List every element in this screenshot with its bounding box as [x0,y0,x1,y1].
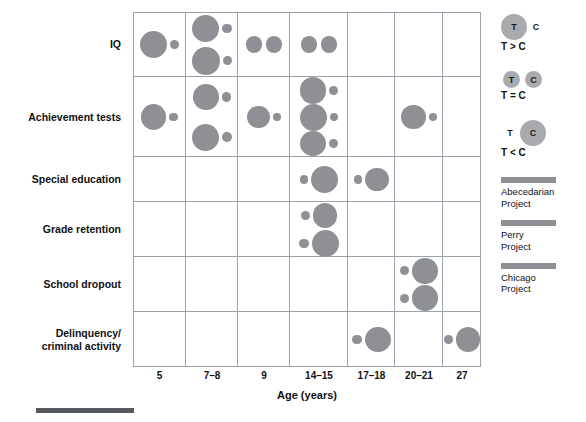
bubble-treatment [401,105,425,129]
bubble-control [222,92,231,101]
x-axis-tick-label: 27 [443,370,481,381]
legend-item-t-equal-c: T C T = C [501,71,586,101]
legend-item-chicago: Chicago Project [501,263,586,296]
x-axis-tick-label: 20–21 [395,370,443,381]
grid-cell [348,202,395,257]
grid-cell [290,257,348,312]
x-axis-tick-label: 7–8 [186,370,238,381]
grid-cell [348,12,395,77]
plot-area [133,12,481,367]
legend: T C T > C T C T = C T C T < C Abec [501,14,586,305]
row-label-line-2: criminal activity [42,340,121,352]
grid-cell [395,312,443,367]
legend-spacer-3 [501,161,586,177]
bubble-control [329,86,338,95]
grid-cell [443,257,481,312]
legend-spacer-2 [501,104,586,120]
grid-cell [238,157,290,202]
row-label-line-1: Delinquency/ [42,327,121,339]
legend-circle-treatment: T [503,71,520,88]
legend-circle-control: C [520,120,546,146]
bubble-chart-figure: IQ Achievement tests Special education G… [0,0,586,422]
row-label-school-dropout: School dropout [0,257,128,312]
legend-color-bar-abecedarian [501,177,556,183]
bubble-control [266,36,283,53]
bubble-treatment [140,31,167,58]
row-label-delinquency-criminal-activity: Delinquency/ criminal activity [0,312,128,367]
legend-circle-control: C [529,20,543,34]
legend-item-perry: Perry Project [501,220,586,253]
row-label-column: IQ Achievement tests Special education G… [0,12,128,367]
bubble-treatment [300,131,326,157]
bubble-control [312,230,339,257]
grid-cell [186,202,238,257]
row-label-iq: IQ [0,12,128,77]
legend-circle-control: C [525,71,542,88]
grid-cell [443,12,481,77]
bubble-control [321,36,338,53]
legend-circle-treatment: T [501,14,527,40]
legend-color-bar-chicago [501,263,556,269]
bubble-control [412,285,438,311]
bubble-treatment [352,335,361,344]
bubble-treatment [247,106,270,129]
bubble-treatment [301,211,310,220]
bubble-treatment [141,104,166,129]
grid-cell [395,157,443,202]
legend-spacer-1 [501,55,586,71]
bubble-treatment [192,124,219,151]
grid-cell [443,157,481,202]
legend-label-line-2: Project [501,198,586,210]
bubble-treatment [299,239,308,248]
bubble-control [429,113,437,121]
legend-label-line-1: Abecedarian [501,186,586,198]
x-axis-tick-label: 14–15 [290,370,348,381]
grid-cell [133,257,186,312]
legend-symbol-t-greater-c: T C [501,14,586,44]
bubble-treatment [300,77,326,103]
bubble-control [329,139,338,148]
row-label-special-education: Special education [0,157,128,202]
grid-cell [186,157,238,202]
legend-label-chicago: Chicago Project [501,272,586,296]
bubble-control [170,40,179,49]
bubble-treatment [192,15,219,42]
grid-cell [238,202,290,257]
grid-cell [133,157,186,202]
grid-cell [443,77,481,157]
row-label-achievement-tests: Achievement tests [0,77,128,157]
legend-label-perry: Perry Project [501,229,586,253]
bubble-control [456,327,480,351]
bubble-treatment [354,175,362,183]
x-axis-tick-label: 9 [238,370,290,381]
figure-rule [36,408,134,413]
grid-cell [238,257,290,312]
grid-cell [290,12,348,77]
bubble-control [169,113,178,122]
row-label-grade-retention: Grade retention [0,202,128,257]
legend-label-line-1: Chicago [501,272,586,284]
x-axis-title: Age (years) [133,389,481,401]
legend-symbol-t-less-c: T C [501,120,586,150]
bubble-treatment [300,104,327,131]
legend-item-t-less-c: T C T < C [501,120,586,158]
bubble-control [365,327,391,353]
grid-cell [443,202,481,257]
bubble-control [412,258,438,284]
bubble-control [365,168,389,192]
bubble-treatment [444,335,453,344]
x-axis-tick-label: 17–18 [348,370,395,381]
grid-cell [133,202,186,257]
legend-label-line-1: Perry [501,229,586,241]
bubble-control [222,24,231,33]
legend-label-abecedarian: Abecedarian Project [501,186,586,210]
grid-cell [348,77,395,157]
legend-circle-treatment: T [503,126,517,140]
legend-label-line-2: Project [501,241,586,253]
bubble-control [222,132,231,141]
legend-item-abecedarian: Abecedarian Project [501,177,586,210]
legend-item-t-greater-c: T C T > C [501,14,586,52]
legend-color-bar-perry [501,220,556,226]
legend-label-line-2: Project [501,283,586,295]
grid-cell [395,12,443,77]
